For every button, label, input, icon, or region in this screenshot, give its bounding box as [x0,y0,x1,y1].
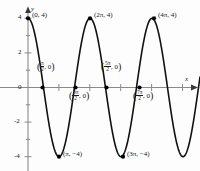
annotation-suffix: , 0 [111,63,118,71]
annotation-min-2: (3π, −4) [127,151,150,158]
x-axis-label: x [185,76,188,83]
annotation-zero-3: (5π2, 0) [101,61,121,73]
paren-close: ) [118,61,121,72]
point-zero-1[interactable] [40,85,44,89]
annotation-max-1: (2π, 4) [94,12,113,19]
annotation-suffix: , 0 [143,92,150,100]
fraction-denominator: 2 [136,96,143,102]
annotation-suffix: , 0 [79,92,86,100]
annotation-max-0: (0, 4) [32,12,47,19]
data-point-markers [0,0,200,171]
paren-close: ) [150,90,153,101]
fraction-pi-over-2: π2 [40,61,44,73]
point-max-2[interactable] [152,16,156,20]
point-min-1[interactable] [57,155,61,159]
point-min-2[interactable] [121,155,125,159]
fraction-3pi-over-2: 3π2 [72,90,79,102]
point-zero-3[interactable] [104,85,108,89]
y-tick-label-0: 0 [18,84,22,91]
fraction-denominator: 2 [40,67,44,73]
fraction-7pi-over-2: 7π2 [136,90,143,102]
annotation-zero-2: (3π2, 0) [69,90,89,102]
y-tick-label-4: 4 [18,14,22,21]
annotation-zero-4: (7π2, 0) [133,90,153,102]
y-tick-label-neg2: -2 [14,118,20,125]
graph-figure: y x 4 2 0 -2 -4 (0, 4) (π, −4) (2π, 4) (… [0,0,200,171]
y-tick-label-neg4: -4 [14,153,20,160]
point-max-1[interactable] [88,16,92,20]
annotation-min-1: (π, −4) [63,151,82,158]
paren-close: ) [51,61,54,72]
paren-close: ) [86,90,89,101]
y-tick-label-2: 2 [18,49,22,56]
fraction-denominator: 2 [104,67,111,73]
fraction-5pi-over-2: 5π2 [104,61,111,73]
fraction-denominator: 2 [72,96,79,102]
annotation-max-2: (4π, 4) [158,12,177,19]
point-max-0[interactable] [26,16,30,20]
annotation-zero-1: (π2, 0) [37,61,55,73]
